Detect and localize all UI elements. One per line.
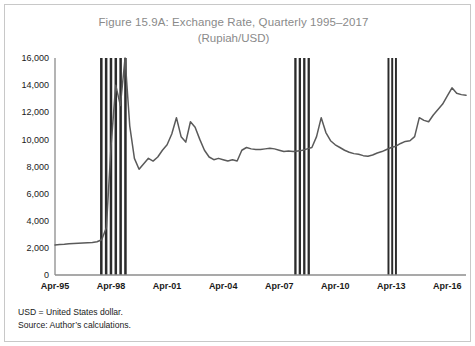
crisis-band-bar (124, 58, 127, 275)
footnotes: USD = United States dollar. Source: Auth… (18, 306, 131, 331)
crisis-band-bar (308, 58, 310, 275)
y-tick-label: 10,000 (21, 135, 49, 145)
crisis-band-bar (105, 58, 108, 275)
y-tick-label: 0 (44, 270, 49, 280)
x-tick-label: Apr-04 (209, 281, 238, 291)
crisis-band-bar (391, 58, 393, 275)
y-tick-label: 12,000 (21, 107, 49, 117)
x-tick-label: Apr-01 (153, 281, 182, 291)
x-tick-label: Apr-10 (321, 281, 350, 291)
y-tick-label: 6,000 (26, 189, 49, 199)
footnote-source: Source: Author’s calculations. (18, 319, 131, 332)
y-tick-label: 2,000 (26, 243, 49, 253)
x-tick-label: Apr-95 (41, 281, 70, 291)
chart-plot: 02,0004,0006,0008,00010,00012,00014,0001… (0, 0, 475, 346)
x-axis-tick-labels: Apr-95Apr-98Apr-01Apr-04Apr-07Apr-10Apr-… (41, 281, 462, 291)
crisis-band-bar (299, 58, 301, 275)
y-tick-label: 16,000 (21, 53, 49, 63)
y-tick-label: 4,000 (26, 216, 49, 226)
crisis-band-bar (388, 58, 390, 275)
crisis-band-bar (303, 58, 305, 275)
x-tick-label: Apr-98 (97, 281, 126, 291)
crisis-band-bar (100, 58, 103, 275)
crisis-band-bar (395, 58, 397, 275)
x-tick-label: Apr-16 (433, 281, 462, 291)
crisis-band-bar (294, 58, 296, 275)
y-axis-tick-labels: 02,0004,0006,0008,00010,00012,00014,0001… (21, 53, 49, 280)
figure-container: Figure 15.9A: Exchange Rate, Quarterly 1… (0, 0, 475, 346)
y-tick-label: 8,000 (26, 162, 49, 172)
shaded-crisis-bands (100, 58, 397, 275)
x-tick-label: Apr-07 (265, 281, 294, 291)
x-tick-label: Apr-13 (377, 281, 406, 291)
footnote-usd: USD = United States dollar. (18, 306, 131, 319)
y-tick-label: 14,000 (21, 80, 49, 90)
